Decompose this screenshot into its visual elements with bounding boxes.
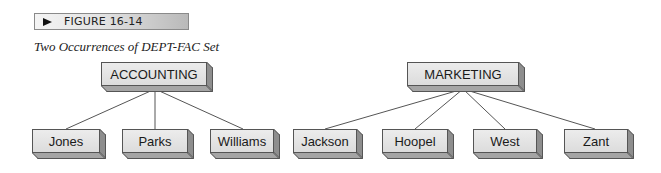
member-label: Jones bbox=[32, 129, 100, 153]
member-box-parks: Parks bbox=[122, 129, 188, 153]
member-box-hoopel: Hoopel bbox=[382, 129, 448, 153]
member-box-jackson: Jackson bbox=[293, 129, 357, 153]
link-accounting-jones bbox=[66, 89, 155, 129]
link-marketing-jackson bbox=[325, 89, 463, 129]
member-box-jones: Jones bbox=[32, 129, 100, 153]
member-box-williams: Williams bbox=[210, 129, 274, 153]
link-accounting-williams bbox=[155, 89, 243, 129]
member-label: Zant bbox=[564, 129, 628, 153]
link-marketing-zant bbox=[463, 89, 595, 129]
owner-box-accounting: ACCOUNTING bbox=[101, 62, 207, 86]
link-marketing-hoopel bbox=[415, 89, 463, 129]
member-label: West bbox=[473, 129, 537, 153]
member-label: Hoopel bbox=[382, 129, 448, 153]
owner-label: ACCOUNTING bbox=[101, 62, 207, 86]
member-label: Jackson bbox=[293, 129, 357, 153]
member-label: Williams bbox=[210, 129, 274, 153]
member-label: Parks bbox=[122, 129, 188, 153]
member-box-zant: Zant bbox=[564, 129, 628, 153]
owner-box-marketing: MARKETING bbox=[407, 62, 519, 86]
member-box-west: West bbox=[473, 129, 537, 153]
owner-label: MARKETING bbox=[407, 62, 519, 86]
